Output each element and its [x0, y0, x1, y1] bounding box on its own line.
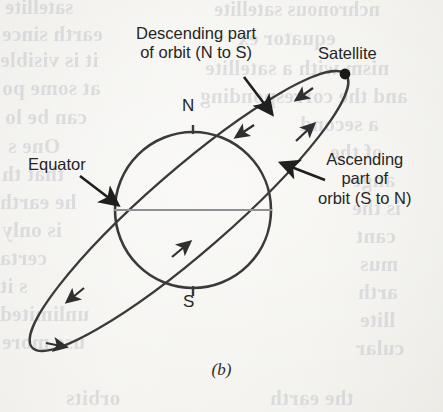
ascending-arrow-core	[172, 242, 190, 257]
ascending-arrow-upper	[296, 124, 314, 141]
label-satellite: Satellite	[318, 44, 377, 63]
descending-arrow-mid	[236, 125, 254, 137]
label-north-pole: N	[182, 96, 194, 116]
label-south-pole: S	[183, 292, 194, 312]
descending-arrow-upper	[296, 88, 313, 100]
figure-caption: (b)	[0, 360, 443, 380]
descending-arrow-lower	[67, 288, 84, 302]
descending-leader-arrow	[244, 77, 272, 114]
satellite-dot	[340, 69, 351, 80]
label-ascending-part: Ascending part of orbit (S to N)	[318, 150, 412, 208]
figure-page: satelliteearth sinceit is visibleat some…	[0, 0, 443, 412]
label-equator: Equator	[28, 155, 86, 174]
equator-leader-arrow	[80, 176, 118, 205]
orbit-direction-arrows	[46, 88, 314, 347]
label-descending-part: Descending part of orbit (N to S)	[136, 24, 256, 63]
